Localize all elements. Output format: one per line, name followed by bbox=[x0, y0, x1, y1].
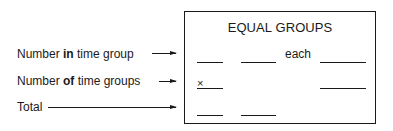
arrow-right-icon bbox=[152, 53, 176, 54]
blank-row3-col2 bbox=[241, 115, 276, 116]
label-number-in-group: Number in time group bbox=[17, 47, 134, 61]
blank-row1-col3 bbox=[320, 62, 366, 63]
label-text: time groups bbox=[74, 74, 140, 88]
each-label: each bbox=[285, 47, 311, 61]
blank-row2-col3 bbox=[320, 88, 366, 89]
label-total: Total bbox=[17, 100, 42, 114]
label-number-of-groups: Number of time groups bbox=[17, 74, 140, 88]
blank-row2-col1 bbox=[197, 88, 223, 89]
blank-row1-col1 bbox=[197, 62, 223, 63]
blank-row3-col1 bbox=[197, 115, 223, 116]
arrow-right-icon bbox=[159, 81, 176, 82]
label-text: Number bbox=[17, 47, 63, 61]
label-text: time group bbox=[74, 47, 134, 61]
equal-groups-box: EQUAL GROUPS each × bbox=[184, 11, 376, 124]
box-title: EQUAL GROUPS bbox=[185, 20, 375, 35]
blank-row1-col2 bbox=[241, 62, 276, 63]
label-text: Total bbox=[17, 100, 42, 114]
label-bold-text: in bbox=[63, 47, 74, 61]
label-text: Number bbox=[17, 74, 63, 88]
label-bold-text: of bbox=[63, 74, 74, 88]
arrow-right-icon bbox=[48, 107, 176, 108]
